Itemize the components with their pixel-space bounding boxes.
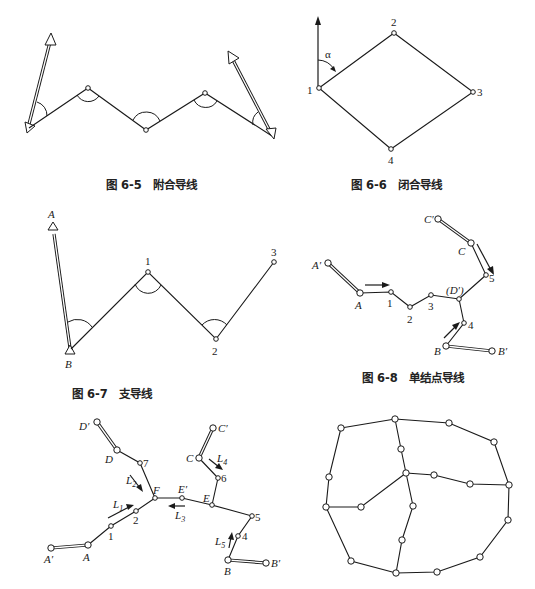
- arrowhead-icon: [126, 504, 134, 510]
- angle-arc: [202, 320, 227, 325]
- arrowhead-icon: [228, 532, 234, 540]
- figure-6-9-multi-junction-traverse: D′ D 7 L2 F E′ E L1 L3 2 1 A A′ C C′ L4 …: [43, 419, 281, 577]
- junction-point: [153, 496, 158, 501]
- traverse-point: [408, 305, 413, 310]
- control-point: [263, 560, 269, 566]
- traverse-point: [236, 534, 241, 539]
- traverse-point: [462, 321, 467, 326]
- junction-label: E: [202, 492, 210, 504]
- traverse-point: [144, 128, 149, 133]
- figure-caption: 图 6-7 支导线: [72, 387, 153, 401]
- figure-6-8-single-junction-traverse: A′ A 1 2 3 (D′) 4 B B′ 5 C C′ 图 6-8 单结点导…: [311, 213, 508, 385]
- traverse-point: [109, 524, 114, 529]
- point-label: 1: [307, 84, 313, 96]
- arrowhead-icon: [330, 66, 336, 72]
- angle-arc: [253, 112, 258, 125]
- traverse-point: [146, 270, 151, 275]
- figure-6-10-traverse-network: [323, 416, 512, 576]
- traverse-point: [250, 514, 255, 519]
- arrowhead-icon: [136, 484, 143, 492]
- point-label: 1: [145, 255, 151, 267]
- point-label: B: [224, 565, 231, 577]
- traverse-path: [29, 88, 272, 136]
- inner-path: [326, 473, 406, 507]
- point-label: B: [434, 345, 441, 357]
- junction-point: [210, 503, 215, 508]
- junction-label: F: [152, 484, 160, 496]
- point-label: A: [82, 551, 90, 563]
- traverse-point: [471, 90, 476, 95]
- figure-caption: 图 6-8 单结点导线: [362, 371, 465, 385]
- segment-label-L2: L2: [125, 474, 136, 489]
- point-label: B′: [498, 345, 508, 357]
- control-point: [196, 455, 202, 461]
- figure-caption: 图 6-5 附合导线: [106, 178, 198, 192]
- figure-6-7-open-traverse: A B 1 2 3 图 6-7 支导线: [47, 208, 277, 401]
- point-label: 2: [407, 313, 413, 325]
- arrowhead-icon: [382, 282, 390, 288]
- traverse-point: [86, 86, 91, 91]
- control-point: [435, 216, 441, 222]
- point-label: 5: [255, 511, 261, 523]
- point-label: 3: [477, 86, 483, 98]
- segment-label-L1: L1: [112, 498, 123, 513]
- angle-arc: [77, 95, 99, 102]
- point-label: C: [186, 452, 194, 464]
- inner-path: [406, 473, 509, 485]
- point-label: C′: [424, 213, 434, 225]
- traverse-point: [203, 91, 208, 96]
- angle-arc: [37, 102, 47, 116]
- known-direction-right: [228, 51, 276, 139]
- direction-arrow: [477, 244, 491, 270]
- inner-path: [395, 419, 413, 573]
- traverse-point: [214, 337, 219, 342]
- point-label: 3: [271, 246, 277, 258]
- point-label: 1: [108, 530, 114, 542]
- control-point: [85, 542, 91, 548]
- point-label: B′: [271, 557, 281, 569]
- north-arrow-icon: [315, 16, 321, 25]
- arrowhead-icon: [168, 503, 175, 509]
- figure-caption: 图 6-6 闭合导线: [351, 178, 443, 192]
- figure-6-5-connecting-traverse: 图 6-5 附合导线: [25, 33, 276, 192]
- traverse-point: [392, 31, 397, 36]
- traverse-figures-sheet: 图 6-5 附合导线 α 1 2 3 4 图 6-6 闭合导线 A B 1 2: [0, 0, 535, 589]
- angle-arc: [194, 100, 217, 107]
- traverse-path: [117, 450, 155, 498]
- junction-point: [457, 297, 462, 302]
- angle-arc: [133, 112, 160, 121]
- traverse-point: [317, 86, 322, 91]
- control-point: [489, 348, 495, 354]
- alpha-label: α: [325, 48, 331, 60]
- control-point: [357, 290, 363, 296]
- point-label: C′: [218, 422, 228, 434]
- traverse-point: [272, 260, 277, 265]
- known-direction-left: [25, 33, 56, 133]
- traverse-point: [134, 509, 139, 514]
- point-label: 2: [133, 514, 139, 526]
- point-label: D: [104, 453, 113, 465]
- control-point: [325, 260, 331, 266]
- traverse-point: [389, 147, 394, 152]
- point-label: 2: [391, 16, 397, 28]
- angle-arc: [135, 284, 161, 293]
- point-label: A′: [311, 259, 322, 271]
- control-point: [443, 343, 449, 349]
- traverse-path: [71, 262, 274, 349]
- triangle-icon: [45, 33, 56, 45]
- control-point: [48, 545, 54, 551]
- point-label: C: [458, 245, 466, 257]
- point-label: 7: [143, 457, 149, 469]
- traverse-point: [484, 273, 489, 278]
- point-label: 4: [468, 319, 474, 331]
- segment-label-L5: L5: [214, 535, 225, 550]
- traverse-point: [389, 290, 394, 295]
- point-label: A: [47, 208, 55, 220]
- azimuth-arc: [318, 60, 334, 69]
- traverse-point: [216, 476, 221, 481]
- point-label: E′: [177, 483, 188, 495]
- triangle-icon: [48, 222, 58, 230]
- point-label: A: [354, 299, 362, 311]
- point-label: 6: [221, 472, 227, 484]
- point-label: 4: [242, 530, 248, 542]
